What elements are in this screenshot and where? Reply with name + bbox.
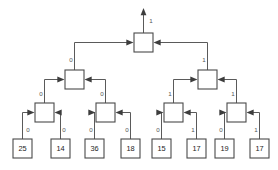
edge-c-leaf4-group: 0 xyxy=(156,110,163,139)
leaf-node-6-label: 19 xyxy=(220,144,228,153)
node-level2-b-box[interactable] xyxy=(96,103,115,122)
node-level1-right-box[interactable] xyxy=(198,70,217,89)
node-level2-b[interactable] xyxy=(96,103,115,122)
tree-canvas: 1 0 1 0 0 1 xyxy=(0,0,278,170)
edge-l1right-d-arrow-icon xyxy=(218,77,225,83)
edge-c-leaf5-group: 1 xyxy=(184,110,197,139)
edge-d-leaf7-group: 1 xyxy=(247,110,260,139)
edge-c-leaf4-label: 0 xyxy=(156,126,160,133)
node-root[interactable] xyxy=(134,33,153,52)
edge-root-left-line xyxy=(75,43,128,71)
edge-b-leaf3-arrow-icon xyxy=(116,110,123,116)
leaf-node-2-label: 36 xyxy=(90,144,98,153)
leaf-node-0[interactable]: 25 xyxy=(13,139,32,158)
edge-b-leaf3-label: 0 xyxy=(125,126,129,133)
leaf-node-1-label: 14 xyxy=(56,144,64,153)
node-level2-c-box[interactable] xyxy=(164,103,183,122)
edge-root-right-group: 1 xyxy=(154,40,208,70)
edge-a-leaf0-arrow-icon xyxy=(27,110,34,116)
leaf-node-1[interactable]: 14 xyxy=(51,139,70,158)
edge-l1left-a-arrow-icon xyxy=(57,77,64,83)
leaf-node-4-label: 15 xyxy=(157,144,165,153)
node-root-box[interactable] xyxy=(134,33,153,52)
node-level1-left[interactable] xyxy=(65,70,84,89)
leaf-node-4[interactable]: 15 xyxy=(152,139,171,158)
node-level2-a-box[interactable] xyxy=(35,103,54,122)
edge-root-left-group: 0 xyxy=(69,40,133,70)
edge-root-right-line xyxy=(160,43,208,71)
tournament-tree-diagram: 1 0 1 0 0 1 xyxy=(0,0,278,170)
edge-d-leaf6-group: 0 xyxy=(219,110,226,139)
leaf-node-5[interactable]: 17 xyxy=(187,139,206,158)
leaf-node-0-label: 25 xyxy=(18,144,26,153)
edge-l1left-a-line xyxy=(45,80,59,104)
edge-b-leaf2-group: 0 xyxy=(88,110,95,139)
edge-d-leaf6-label: 0 xyxy=(219,126,223,133)
leaf-node-5-label: 17 xyxy=(192,144,200,153)
node-level2-d[interactable] xyxy=(227,103,246,122)
edge-l1right-c-line xyxy=(174,80,192,104)
leaf-node-3-label: 18 xyxy=(126,144,134,153)
leaf-node-7[interactable]: 17 xyxy=(250,139,269,158)
edge-a-leaf0-group: 0 xyxy=(23,110,35,139)
output-arrow-icon xyxy=(141,8,147,15)
edge-l1right-d-group: 1 xyxy=(218,77,237,103)
edge-l1left-b-group: 0 xyxy=(85,77,106,103)
edge-l1right-c-group: 1 xyxy=(168,77,197,103)
edge-root-right-arrow-icon xyxy=(154,40,161,46)
node-level2-c[interactable] xyxy=(164,103,183,122)
leaf-node-2[interactable]: 36 xyxy=(85,139,104,158)
edge-a-leaf1-line xyxy=(61,113,62,140)
edge-c-leaf5-label: 1 xyxy=(191,126,195,133)
edge-l1right-d-label: 1 xyxy=(231,90,235,97)
edge-l1right-c-label: 1 xyxy=(168,90,172,97)
node-level1-right[interactable] xyxy=(198,70,217,89)
edge-root-right-label: 1 xyxy=(202,56,206,63)
edge-a-leaf0-label: 0 xyxy=(26,126,30,133)
edge-l1left-a-group: 0 xyxy=(39,77,64,103)
output-edge-group: 1 xyxy=(141,8,154,33)
edge-c-leaf5-arrow-icon xyxy=(184,110,191,116)
node-level1-left-box[interactable] xyxy=(65,70,84,89)
edge-b-leaf2-label: 0 xyxy=(89,126,93,133)
edge-a-leaf1-label: 0 xyxy=(62,126,66,133)
edge-b-leaf3-group: 0 xyxy=(116,110,131,139)
edge-a-leaf1-arrow-icon xyxy=(55,110,62,116)
edge-root-left-label: 0 xyxy=(69,56,73,63)
edge-l1left-b-label: 0 xyxy=(100,90,104,97)
node-level2-d-box[interactable] xyxy=(227,103,246,122)
edge-l1right-c-arrow-icon xyxy=(190,77,197,83)
edge-l1left-a-label: 0 xyxy=(39,90,43,97)
edge-d-leaf6-arrow-icon xyxy=(219,110,226,116)
edge-root-left-arrow-icon xyxy=(126,40,133,46)
edge-d-leaf7-arrow-icon xyxy=(247,110,254,116)
node-level2-a[interactable] xyxy=(35,103,54,122)
leaf-node-6[interactable]: 19 xyxy=(215,139,234,158)
edge-l1left-b-arrow-icon xyxy=(85,77,92,83)
output-edge-label: 1 xyxy=(149,17,153,24)
edge-c-leaf4-arrow-icon xyxy=(156,110,163,116)
edge-a-leaf1-group: 0 xyxy=(55,110,67,139)
leaf-node-7-label: 17 xyxy=(255,144,263,153)
edge-d-leaf7-label: 1 xyxy=(254,126,258,133)
leaf-node-3[interactable]: 18 xyxy=(121,139,140,158)
